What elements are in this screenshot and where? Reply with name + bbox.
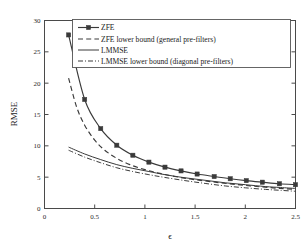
data-point — [277, 182, 281, 186]
y-tick-label: 15 — [34, 111, 42, 119]
x-tick-label: 2.5 — [291, 213, 300, 221]
x-tick-label: 0 — [43, 213, 47, 221]
y-tick-label: 10 — [34, 142, 42, 150]
y-axis-title: RMSE — [9, 101, 19, 126]
data-point — [293, 183, 297, 187]
data-point — [212, 174, 216, 178]
data-point — [228, 177, 232, 181]
chart-legend: ZFEZFE lower bound (general pre-filters)… — [73, 20, 291, 68]
data-point — [179, 169, 183, 173]
legend-label-0: ZFE — [101, 23, 115, 32]
legend-label-3: LMMSE lower bound (diagonal pre-filters) — [101, 57, 233, 66]
data-point — [83, 97, 87, 101]
data-point — [195, 172, 199, 176]
y-tick-label: 0 — [37, 205, 41, 213]
x-tick-label: 1 — [143, 213, 147, 221]
data-point — [244, 179, 248, 183]
data-point — [163, 165, 167, 169]
x-axis-title: ϵ — [168, 231, 172, 241]
y-tick-label: 30 — [34, 17, 42, 25]
data-point — [131, 153, 135, 157]
data-point — [115, 143, 119, 147]
legend-label-1: ZFE lower bound (general pre-filters) — [101, 35, 216, 44]
data-point — [99, 127, 103, 131]
x-tick-label: 2 — [244, 213, 248, 221]
chart-figure: 051015202530 00.511.522.5 RMSE ϵ ZFEZFE … — [0, 0, 307, 248]
x-tick-label: 1.5 — [191, 213, 200, 221]
data-point — [147, 160, 151, 164]
y-tick-label: 20 — [34, 80, 42, 88]
legend-label-2: LMMSE — [101, 46, 128, 55]
y-tick-label: 25 — [34, 48, 42, 56]
data-point — [260, 180, 264, 184]
legend-marker — [86, 25, 90, 29]
rmse-vs-epsilon-chart: 051015202530 00.511.522.5 RMSE ϵ ZFEZFE … — [0, 0, 307, 248]
y-tick-label: 5 — [37, 174, 41, 182]
x-tick-label: 0.5 — [90, 213, 99, 221]
data-point — [66, 33, 70, 37]
